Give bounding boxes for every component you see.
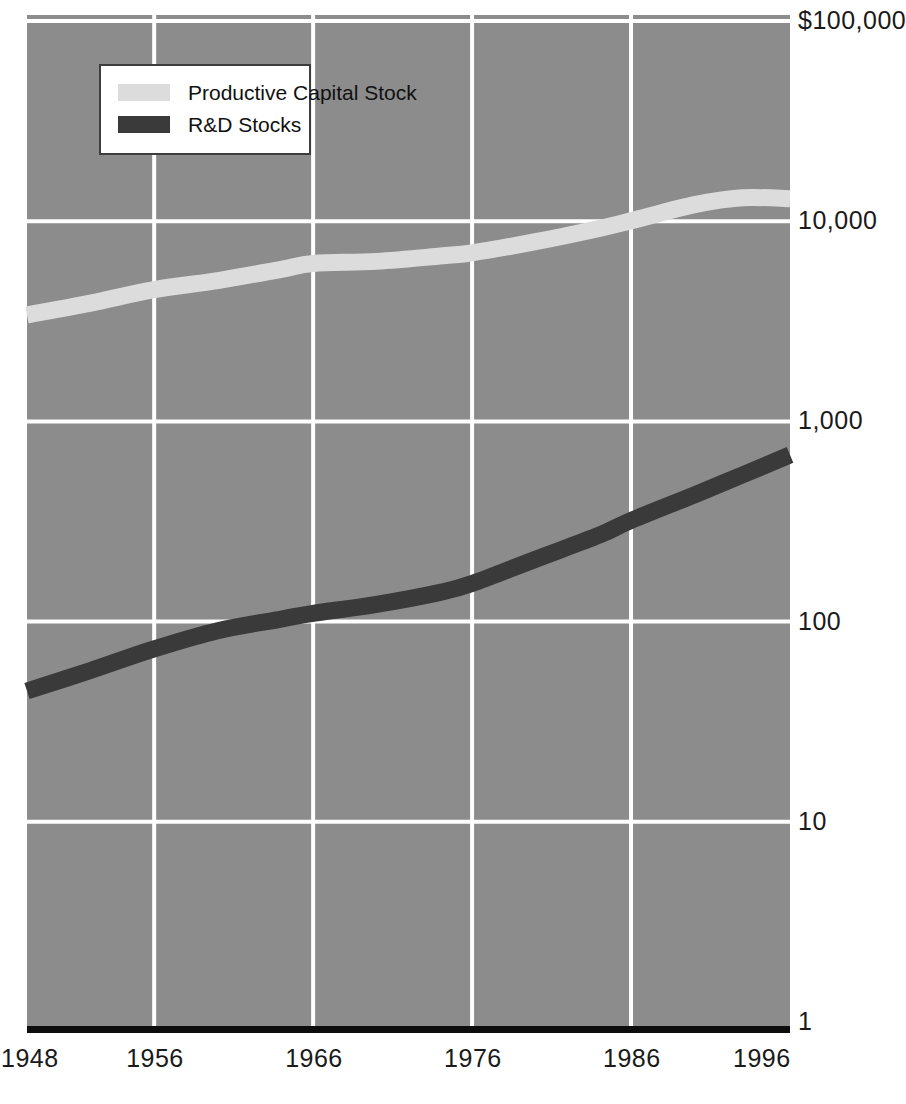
x-tick-label: 1966 xyxy=(285,1046,343,1071)
y-tick-label: 10 xyxy=(798,809,827,834)
legend-swatch-productive-capital-stock xyxy=(118,84,170,101)
series-lines xyxy=(27,197,790,691)
x-tick-label: 1996 xyxy=(733,1046,791,1071)
x-tick-label: 1976 xyxy=(444,1046,502,1071)
x-tick-label: 1986 xyxy=(603,1046,661,1071)
gridlines xyxy=(27,15,790,1030)
y-tick-label: 10,000 xyxy=(798,208,877,233)
y-tick-label: 100 xyxy=(798,609,841,634)
legend-swatch-rd-stocks xyxy=(118,116,170,133)
legend-item-rd-stocks: R&D Stocks xyxy=(118,114,301,134)
x-tick-label: 1956 xyxy=(126,1046,184,1071)
y-tick-label: $100,000 xyxy=(798,8,906,33)
series-line-productive-capital-stock xyxy=(27,197,790,315)
y-tick-label: 1 xyxy=(798,1009,812,1034)
series-line-r-d-stocks xyxy=(27,455,790,691)
legend-label-productive-capital-stock: Productive Capital Stock xyxy=(188,82,417,103)
x-tick-label: 1948 xyxy=(1,1046,59,1071)
x-axis-baseline xyxy=(27,1026,790,1033)
chart-legend: Productive Capital Stock R&D Stocks xyxy=(99,64,311,155)
legend-item-productive-capital-stock: Productive Capital Stock xyxy=(118,82,417,102)
y-tick-label: 1,000 xyxy=(798,408,863,433)
legend-label-rd-stocks: R&D Stocks xyxy=(188,114,301,135)
